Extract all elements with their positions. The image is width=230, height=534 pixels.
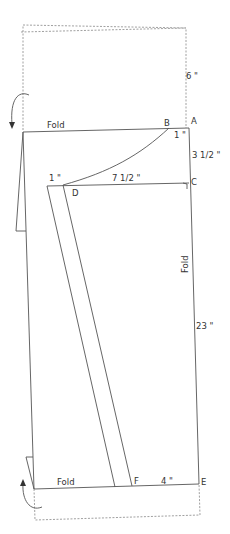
top-fold-extension — [21, 25, 186, 130]
point-c: C — [191, 177, 197, 187]
fold-arrow-bottom-icon — [20, 479, 42, 508]
measurement-top-extension: 6 " — [186, 71, 198, 81]
measurement-f-to-e: 4 " — [161, 476, 173, 486]
fold-label-top: Fold — [47, 120, 65, 130]
fold-label-bottom: Fold — [57, 477, 75, 487]
measurement-a-to-c: 3 1/2 " — [192, 150, 220, 160]
point-e: E — [201, 477, 206, 487]
fold-arrow-top-icon — [9, 94, 29, 129]
point-a: A — [191, 116, 197, 126]
front-strip — [47, 185, 132, 487]
measurement-c-to-e: 23 " — [196, 321, 214, 331]
pattern-outline — [16, 128, 199, 489]
measurement-d-offset: 1 " — [49, 173, 61, 183]
point-d: D — [72, 188, 79, 198]
measurement-d-to-c: 7 1/2 " — [112, 173, 140, 183]
point-b: B — [164, 118, 170, 128]
right-angle-mark — [183, 183, 187, 189]
bottom-fold-extension — [34, 484, 200, 520]
pattern-diagram: Fold Fold Fold B A C D E F 6 " 1 " 3 1/2… — [0, 0, 230, 534]
point-f: F — [134, 476, 139, 486]
measurement-b-offset: 1 " — [174, 130, 186, 140]
fold-label-right: Fold — [180, 255, 190, 273]
